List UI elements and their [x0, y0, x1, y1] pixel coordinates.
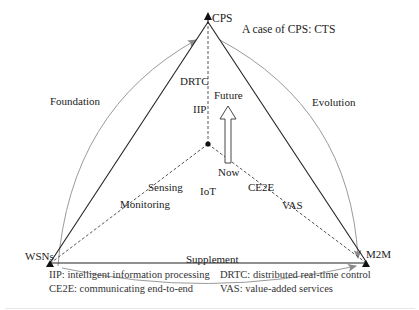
spoke-label-drtc: DRTC — [180, 76, 209, 87]
arc-label-foundation: Foundation — [50, 96, 100, 107]
center-label-iot: IoT — [200, 186, 216, 197]
cps-arrowhead-icon — [204, 12, 212, 20]
transition-label-now: Now — [218, 167, 239, 178]
center-dot — [205, 141, 210, 146]
spoke-label-vas: VAS — [282, 200, 303, 211]
bottom-divider — [5, 308, 415, 309]
case-note: A case of CPS: CTS — [242, 24, 335, 36]
transition-label-future: Future — [214, 90, 243, 101]
arc-label-supplement: Supplement — [186, 254, 239, 265]
legend-ce2e: CE2E: communicating end-to-end — [49, 284, 193, 295]
legend-iip: IIP: intelligent information processing — [49, 270, 210, 281]
arc-label-evolution: Evolution — [312, 97, 355, 108]
legend-drtc: DRTC: distributed real-time control — [220, 270, 371, 281]
vertex-label-m2m: M2M — [366, 249, 391, 260]
spoke-label-ce2e: CE2E — [248, 182, 274, 193]
foundation-arc — [58, 40, 196, 266]
spoke-label-iip: IIP — [193, 104, 206, 115]
evolution-arc — [220, 40, 358, 258]
legend-vas: VAS: value-added services — [220, 284, 333, 295]
vertex-label-wsns: WSNs — [25, 251, 54, 262]
vertex-label-cps: CPS — [212, 13, 232, 25]
spoke-label-monitoring: Monitoring — [120, 199, 170, 210]
spoke-label-sensing: Sensing — [148, 182, 183, 193]
